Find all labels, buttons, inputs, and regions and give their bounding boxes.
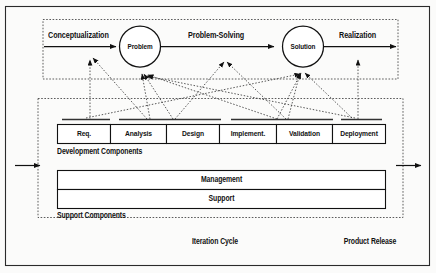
- feedback-implement-to-solution: [277, 73, 301, 119]
- band-label-support: Support: [83, 195, 359, 203]
- cell-label-validation: Validation: [281, 130, 329, 138]
- feedback-cross-right: [147, 76, 355, 118]
- node-label-problem: Problem: [115, 43, 165, 51]
- diagram-canvas: Conceptualization Problem-Solving Realiz…: [0, 0, 436, 273]
- feedback-arrow-group: [86, 58, 358, 120]
- flow-label-problem-solving: Problem-Solving: [188, 31, 244, 40]
- cell-label-deployment: Deployment: [336, 130, 381, 138]
- cell-label-implement: Implement.: [224, 130, 273, 138]
- feedback-design-to-problem-solving: [175, 62, 224, 119]
- node-label-solution: Solution: [278, 43, 328, 51]
- flow-label-realization: Realization: [339, 31, 376, 40]
- footer-label-product-release: Product Release: [328, 238, 412, 246]
- feedback-validation-to-problem-solving: [227, 62, 286, 119]
- support-components-caption: Support Components: [57, 212, 126, 220]
- feedback-validation-to-solution: [288, 73, 300, 119]
- problem-solving-lane-boundary: [43, 20, 398, 80]
- feedback-cross-left: [86, 74, 300, 118]
- feedback-deployment-to-solution: [305, 73, 352, 118]
- cell-label-design: Design: [170, 130, 215, 138]
- cell-label-analysis: Analysis: [115, 130, 163, 138]
- cell-label-req: Req.: [61, 130, 106, 138]
- band-label-management: Management: [83, 176, 359, 184]
- footer-label-iteration-cycle: Iteration Cycle: [169, 238, 261, 246]
- development-components-caption: Development Components: [57, 148, 142, 156]
- feedback-implement-to-problem: [148, 75, 277, 119]
- flow-label-conceptualization: Conceptualization: [48, 31, 109, 40]
